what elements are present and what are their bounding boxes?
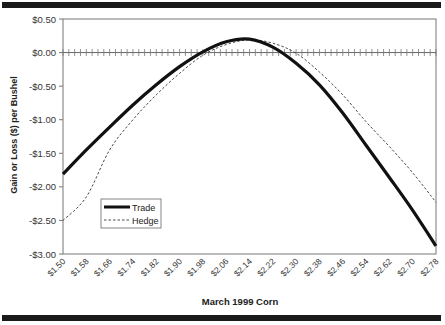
x-tick-label: $2.46 [325, 256, 347, 278]
y-tick-label: -$2.00 [29, 181, 56, 192]
x-tick-label: $1.90 [162, 256, 184, 278]
x-tick-label: $1.50 [45, 256, 67, 278]
legend: Trade Hedge [101, 199, 161, 228]
zero-line [63, 49, 436, 56]
x-axis-ticks: $1.50$1.58$1.66$1.74$1.82$1.90$1.98$2.06… [45, 256, 440, 278]
x-tick-label: $2.54 [348, 256, 370, 278]
y-axis-title: Gain or Loss ($) per Bushel [9, 55, 19, 215]
y-tick-label: -$1.00 [29, 114, 56, 125]
x-tick-label: $2.38 [302, 256, 324, 278]
y-tick-label: -$1.50 [29, 148, 56, 159]
x-tick-label: $2.70 [395, 256, 417, 278]
chart-plot: $0.50$0.00-$0.50-$1.00-$1.50-$2.00-$2.50… [0, 0, 445, 325]
y-tick-label: -$2.50 [29, 215, 56, 226]
x-tick-label: $1.82 [139, 256, 161, 278]
x-tick-label: $2.30 [278, 256, 300, 278]
x-tick-label: $2.62 [372, 256, 394, 278]
x-tick-label: $2.06 [208, 256, 230, 278]
x-tick-label: $1.74 [115, 256, 137, 278]
x-tick-label: $2.14 [232, 256, 254, 278]
legend-hedge-label: Hedge [132, 216, 159, 226]
y-tick-label: $0.50 [32, 14, 56, 25]
x-tick-label: $1.98 [185, 256, 207, 278]
x-axis-title: March 1999 Corn [150, 296, 330, 307]
x-tick-label: $2.78 [418, 256, 440, 278]
y-tick-label: -$3.00 [29, 249, 56, 260]
hedge-series-line [63, 40, 436, 221]
x-tick-label: $1.58 [69, 256, 91, 278]
x-tick-label: $1.66 [92, 256, 114, 278]
y-tick-label: $0.00 [32, 47, 56, 58]
x-tick-label: $2.22 [255, 256, 277, 278]
y-tick-label: -$0.50 [29, 81, 56, 92]
y-axis-ticks: $0.50$0.00-$0.50-$1.00-$1.50-$2.00-$2.50… [29, 14, 63, 260]
legend-trade-label: Trade [132, 203, 155, 213]
